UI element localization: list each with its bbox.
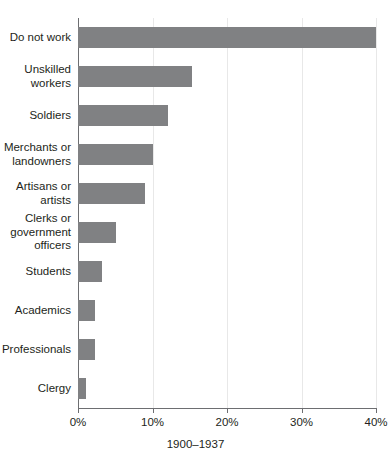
category-label: Merchants or landowners [0,141,71,168]
x-tick-label: 10% [123,416,183,428]
x-tick-label: 20% [197,416,257,428]
category-label: Soldiers [0,109,71,123]
x-tick-mark [302,408,303,413]
x-tick-mark [78,408,79,413]
bar-row [78,369,376,408]
bar [78,183,145,204]
bar-chart: 1900–1937 0%10%20%30%40%Do not workUnski… [0,0,391,463]
bar [78,339,95,360]
bar [78,300,95,321]
gridline [376,18,377,408]
category-label: Unskilled workers [0,63,71,90]
category-label: Clergy [0,382,71,396]
bar-row [78,96,376,135]
bar [78,66,192,87]
bar [78,222,116,243]
bar-row [78,330,376,369]
bar [78,144,153,165]
category-label: Clerks or government officers [0,212,71,253]
bar-row [78,57,376,96]
bar-row [78,18,376,57]
bar-row [78,291,376,330]
bar [78,105,168,126]
category-label: Academics [0,304,71,318]
category-label: Do not work [0,31,71,45]
x-tick-label: 0% [48,416,108,428]
bar [78,27,376,48]
category-label: Students [0,265,71,279]
bar-row [78,135,376,174]
x-tick-label: 40% [346,416,391,428]
category-label: Professionals [0,343,71,357]
x-tick-mark [376,408,377,413]
plot-area [78,18,376,408]
x-tick-mark [227,408,228,413]
category-label: Artisans or artists [0,180,71,207]
bar [78,378,86,399]
bar-row [78,174,376,213]
bar-row [78,252,376,291]
x-tick-label: 30% [272,416,332,428]
bar-row [78,213,376,252]
x-tick-mark [153,408,154,413]
x-axis-title: 1900–1937 [0,438,391,450]
bar [78,261,102,282]
